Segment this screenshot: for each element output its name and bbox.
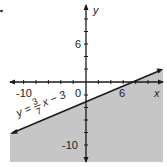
equation-denominator: 7 bbox=[35, 106, 43, 117]
y-tick-label-neg10: -10 bbox=[62, 139, 78, 151]
equation-lhs: y = bbox=[13, 102, 33, 119]
inequality-graph: y x -10 0 6 6 -10 y = 3 7 x − 3 bbox=[0, 0, 167, 167]
y-axis-up-arrow-icon bbox=[84, 4, 89, 10]
x-tick-label-6: 6 bbox=[119, 87, 125, 99]
x-tick-label-0: 0 bbox=[75, 87, 81, 99]
y-tick-label-6: 6 bbox=[75, 38, 81, 50]
x-axis-left-arrow-icon bbox=[9, 80, 15, 85]
equation-rhs: x − 3 bbox=[39, 88, 68, 109]
x-axis-label: x bbox=[153, 87, 160, 99]
x-tick-label-neg10: -10 bbox=[16, 87, 32, 99]
line-left-arrow-icon bbox=[10, 129, 18, 134]
y-axis-label: y bbox=[92, 4, 100, 16]
figure-marker bbox=[0, 10, 3, 13]
